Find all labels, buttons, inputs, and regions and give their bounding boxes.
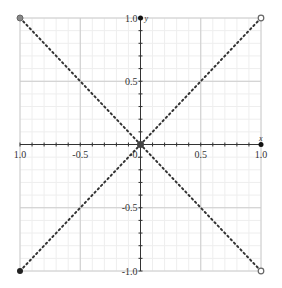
axis-end-marker (138, 16, 143, 21)
y-tick-label: 0.5 (125, 76, 138, 87)
chart-plot: 1.0-0.5-0.0.51.01.00.5-0.5-1.0xy (0, 0, 282, 288)
origin-marker (137, 141, 144, 148)
filled-point-marker (17, 268, 23, 274)
x-tick-label: -0. (129, 149, 140, 160)
x-tick-label: 1.0 (14, 149, 27, 160)
x-tick-label: 0.5 (195, 149, 208, 160)
x-tick-label: -0.5 (72, 149, 88, 160)
open-point-marker (258, 15, 264, 21)
y-tick-label: 1.0 (125, 13, 138, 24)
filled-point-marker (17, 15, 23, 21)
y-tick-label: -0.5 (122, 202, 138, 213)
y-tick-label: -1.0 (122, 266, 138, 277)
x-axis-label: x (258, 134, 263, 143)
axis-end-marker (259, 142, 264, 147)
x-tick-label: 1.0 (255, 149, 268, 160)
y-axis-label: y (144, 14, 149, 23)
open-point-marker (258, 268, 264, 274)
